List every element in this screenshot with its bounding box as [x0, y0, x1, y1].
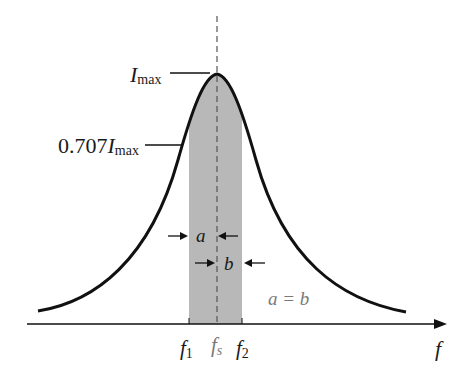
resonance-diagram: Imax 0.707Imax a b a = b f1 fs f2 f	[0, 0, 473, 376]
fs-label: fs	[211, 333, 223, 358]
equality-label: a = b	[268, 288, 309, 309]
b-label: b	[224, 253, 234, 274]
x-axis-arrow-icon	[434, 319, 447, 329]
imax-label: Imax	[129, 62, 161, 87]
f1-label: f1	[180, 336, 193, 361]
a-label: a	[196, 225, 206, 246]
x-axis-label: f	[435, 336, 444, 361]
f2-label: f2	[236, 336, 249, 361]
half-power-label: 0.707Imax	[58, 133, 139, 158]
